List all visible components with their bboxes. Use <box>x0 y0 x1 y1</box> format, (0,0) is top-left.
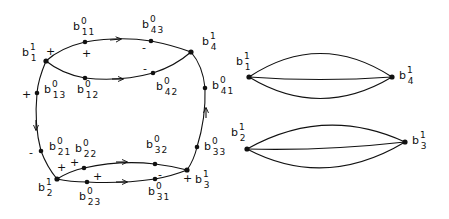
node-label-b23_0: b023 <box>79 191 101 202</box>
right-graph-edges <box>247 54 405 168</box>
node-label-b21_0: b021 <box>49 141 71 152</box>
node-label-b2_1: b12 <box>38 182 53 193</box>
sign-label: + <box>22 89 31 100</box>
sign-label: - <box>143 63 147 74</box>
right-graph-1-left-label: b12 <box>231 127 246 138</box>
sign-label: - <box>29 147 33 158</box>
node-label-b11_0: b011 <box>73 21 95 32</box>
sign-label: + <box>82 48 91 59</box>
node-label-b3_1: b13 <box>195 174 210 185</box>
node-label-b43_0: b043 <box>142 19 164 30</box>
sign-label: + <box>46 46 55 57</box>
node-label-b4_1: b14 <box>202 36 217 47</box>
edge-right-side <box>187 52 205 170</box>
edge-bottom-lower <box>57 170 187 183</box>
node-label-b12_0: b012 <box>77 84 99 95</box>
node-label-b42_0: b042 <box>156 81 178 92</box>
node-label-b1_1: b11 <box>22 47 37 58</box>
node-label-b13_0: b013 <box>44 84 66 95</box>
sign-label: + <box>70 157 79 168</box>
node-label-b22_0: b022 <box>75 143 97 154</box>
node-label-b33_0: b033 <box>204 141 226 152</box>
node-label-b31_0: b031 <box>148 186 170 197</box>
right-graph-nodes <box>244 74 407 151</box>
sign-label: - <box>142 42 146 53</box>
right-graph-0-left-label: b11 <box>236 56 251 67</box>
sign-label: + <box>183 173 192 184</box>
graph-diagram <box>0 0 449 219</box>
edge-top-upper <box>46 39 191 61</box>
sign-label: + <box>93 171 102 182</box>
sign-label: - <box>158 169 162 180</box>
node-label-b32_0: b032 <box>146 139 168 150</box>
right-graph-1-right-label: b13 <box>412 135 427 146</box>
node-label-b41_0: b041 <box>212 80 234 91</box>
right-graph-0-right-label: b14 <box>399 70 414 81</box>
sign-label: + <box>57 162 66 173</box>
